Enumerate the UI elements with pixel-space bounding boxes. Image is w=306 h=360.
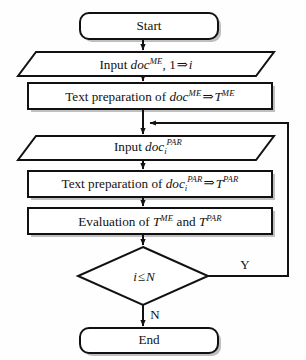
input-me-comma: , 1 — [163, 57, 176, 72]
evaluate-t1-superscript: ME — [160, 213, 173, 223]
edge-label-no: N — [150, 308, 159, 321]
input-me-doc: doc — [131, 57, 150, 72]
node-start-label: Start — [137, 19, 162, 32]
node-decision-label: i≤N — [133, 270, 155, 283]
node-input-me-label: Input docME, 1⇒i — [99, 57, 192, 72]
prep-me-t: T — [214, 89, 221, 104]
prep-me-doc: doc — [169, 89, 188, 104]
prep-par-doc-superscript: PAR — [187, 174, 202, 184]
input-me-arrow-icon: ⇒ — [176, 57, 189, 72]
prep-par-t-superscript: PAR — [223, 174, 238, 184]
prep-par-lead: Text preparation of — [62, 176, 166, 191]
input-me-lead: Input — [99, 57, 130, 72]
node-prep-par-label: Text preparation of dociPAR⇒TPAR — [62, 175, 239, 193]
prep-me-t-superscript: ME — [222, 88, 235, 98]
edge-label-yes: Y — [240, 258, 249, 271]
node-prep-me-label: Text preparation of docME⇒TME — [65, 89, 235, 104]
node-end-label: End — [138, 333, 159, 346]
prep-par-doc-subscript: i — [185, 183, 187, 193]
input-par-doc: doc — [145, 139, 164, 154]
evaluate-conjunction: and — [173, 214, 199, 229]
input-me-var-i: i — [189, 57, 193, 72]
prep-me-arrow-icon: ⇒ — [201, 89, 214, 104]
evaluate-t1: T — [153, 214, 160, 229]
input-par-doc-superscript: PAR — [167, 137, 182, 147]
decision-operator: ≤ — [137, 269, 146, 284]
prep-par-arrow-icon: ⇒ — [203, 176, 216, 191]
prep-par-doc: doc — [166, 176, 185, 191]
prep-me-doc-superscript: ME — [188, 88, 201, 98]
evaluate-t2-superscript: PAR — [206, 213, 221, 223]
node-input-par-label: Input dociPAR — [114, 138, 182, 156]
evaluate-t2: T — [199, 214, 206, 229]
input-me-doc-superscript: ME — [150, 56, 163, 66]
flowchart-diagram: Start Input docME, 1⇒i Text preparation … — [0, 0, 306, 360]
input-par-lead: Input — [114, 139, 145, 154]
input-par-doc-subscript: i — [164, 146, 166, 156]
decision-var-n: N — [146, 269, 155, 284]
evaluate-lead: Evaluation of — [78, 214, 153, 229]
prep-me-lead: Text preparation of — [65, 89, 169, 104]
node-evaluate-label: Evaluation of TME and TPAR — [78, 214, 221, 229]
